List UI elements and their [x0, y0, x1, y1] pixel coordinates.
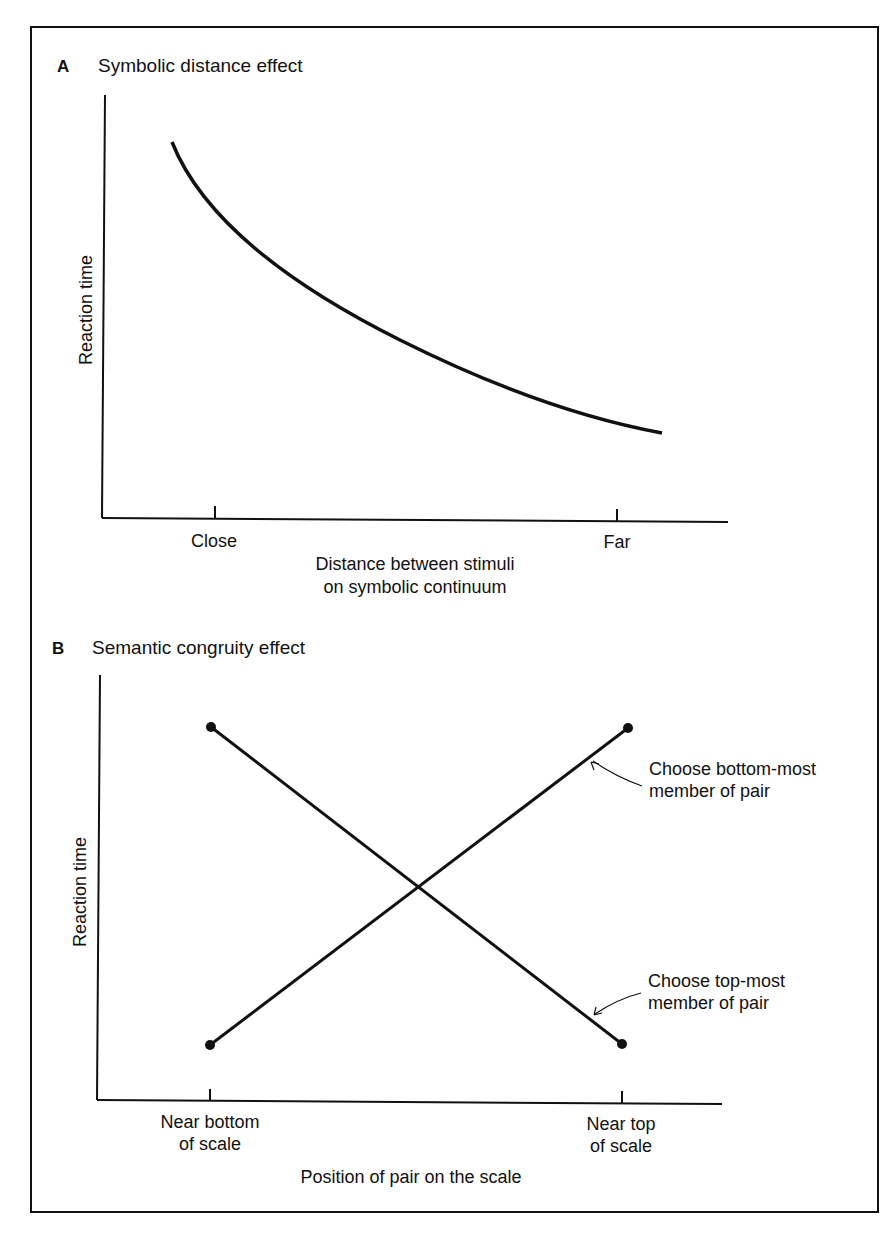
annotation-bottom-most-line2: member of pair: [649, 781, 770, 801]
panel-a-y-label: Reaction time: [76, 255, 96, 365]
panel-b: B Semantic congruity effect Choose botto…: [52, 637, 816, 1187]
panel-b-tick-label-left-line1: Near bottom: [160, 1112, 259, 1132]
panel-a-curve: [172, 142, 662, 433]
panel-a-x-label-line2: on symbolic continuum: [323, 577, 506, 597]
panel-b-letter: B: [52, 639, 64, 658]
panel-b-x-label: Position of pair on the scale: [300, 1167, 521, 1187]
panel-a-x-axis: [102, 518, 728, 522]
annotation-bottom-most-line1: Choose bottom-most: [649, 759, 816, 779]
panel-b-y-label: Reaction time: [70, 837, 90, 947]
arrowhead-icon: [591, 762, 599, 770]
panel-b-point: [617, 1039, 627, 1049]
panel-b-title: Semantic congruity effect: [92, 637, 306, 658]
panel-b-x-axis: [97, 1100, 722, 1104]
panel-b-tick-label-right-line1: Near top: [586, 1114, 655, 1134]
panel-b-tick-label-left-line2: of scale: [179, 1134, 241, 1154]
panel-b-point: [206, 722, 216, 732]
figure-canvas: A Symbolic distance effect Reaction time…: [0, 0, 895, 1241]
panel-b-y-axis: [97, 675, 100, 1100]
panel-a-tick-label-close: Close: [191, 531, 237, 551]
annotation-leader-top-most: [595, 993, 641, 1014]
annotation-top-most-line2: member of pair: [648, 993, 769, 1013]
panel-a: A Symbolic distance effect Reaction time…: [57, 55, 728, 597]
panel-b-point: [623, 723, 633, 733]
annotation-leader-bottom-most: [593, 761, 642, 786]
annotation-top-most-line1: Choose top-most: [648, 971, 785, 991]
panel-a-title: Symbolic distance effect: [98, 55, 303, 76]
panel-b-tick-label-right-line2: of scale: [590, 1136, 652, 1156]
panel-b-point: [205, 1040, 215, 1050]
figure-frame: [31, 27, 878, 1212]
panel-a-tick-label-far: Far: [604, 532, 631, 552]
panel-a-letter: A: [57, 57, 69, 76]
panel-a-x-label-line1: Distance between stimuli: [315, 554, 514, 574]
panel-a-y-axis: [102, 95, 105, 518]
